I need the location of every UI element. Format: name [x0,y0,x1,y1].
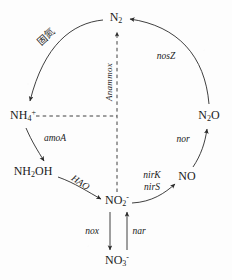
arrow-nh4-to-nh2oh [26,128,44,161]
node-no3: NO3- [105,254,129,268]
node-nh4: NH4+ [10,109,36,123]
arrow-no-to-n2o [193,129,207,167]
gene-label-nar: nar [132,227,145,237]
gene-label-nosz: nosZ [157,52,175,62]
nitrogen-cycle-diagram: N2 NH4+ NH2OH NO2- NO3- NO N2O nosZ Anam… [0,0,232,280]
gene-label-nox: nox [85,227,99,237]
gene-label-anammox: Anammox [105,63,114,101]
diagram-canvas [0,0,232,280]
node-n2: N2 [110,11,123,25]
gene-label-nor: nor [176,135,189,145]
gene-label-nirs: nirS [144,183,160,193]
node-n2o: N2O [198,109,219,123]
gene-label-amoa: amoA [44,134,66,144]
node-no2: NO2- [105,194,129,208]
gene-label-nirk: nirK [143,171,160,181]
node-nh2oh: NH2OH [14,165,53,179]
node-no: NO [178,170,195,182]
